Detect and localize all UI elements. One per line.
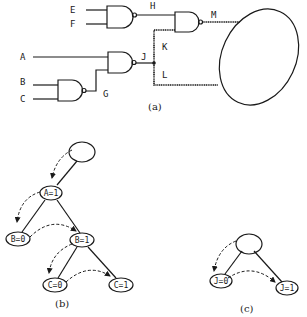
nand-gate-bc xyxy=(58,80,86,101)
label-c: C xyxy=(20,94,25,104)
label-m: M xyxy=(211,10,217,20)
tree-node-j1: J=1 xyxy=(276,281,298,295)
label-f: F xyxy=(70,19,75,29)
label-a: A xyxy=(20,52,26,62)
decision-tree-figure-b: A=1 B=0 B=1 C=0 C=1 (b) xyxy=(6,142,133,309)
edge-root-j0 xyxy=(225,251,242,274)
label-l: L xyxy=(162,70,167,80)
tree-node-root-c xyxy=(236,234,262,254)
edge-a1-b0 xyxy=(22,200,45,232)
tree-node-b0: B=0 xyxy=(6,232,30,246)
nand-gate-hk xyxy=(175,12,203,32)
svg-text:J=0: J=0 xyxy=(214,277,229,286)
nand-gate-ag xyxy=(108,52,136,73)
traversal-arrow xyxy=(49,244,72,273)
label-k: K xyxy=(162,42,168,52)
tree-node-root xyxy=(69,142,95,162)
label-g: G xyxy=(103,89,108,99)
tree-node-c1: C=1 xyxy=(109,278,133,292)
traversal-arrow xyxy=(66,270,110,282)
caption-a: (a) xyxy=(148,101,162,112)
traversal-arrow xyxy=(17,192,40,222)
tree-node-b1: B=1 xyxy=(70,233,94,247)
label-h: H xyxy=(150,1,155,11)
tree-node-j0: J=0 xyxy=(210,274,232,288)
wire-g xyxy=(86,70,108,91)
decision-tree-figure-c: J=0 J=1 (c) xyxy=(210,234,298,314)
edge-a1-b1 xyxy=(57,200,80,233)
svg-text:J=1: J=1 xyxy=(280,284,295,293)
label-e: E xyxy=(70,5,75,15)
edge-root-a1 xyxy=(57,161,77,185)
circuit-figure-a: E F H M K L A J B C xyxy=(20,0,307,118)
label-b: B xyxy=(20,77,25,87)
circuit-block-ellipse xyxy=(204,0,307,118)
tree-node-a1: A=1 xyxy=(40,186,62,200)
tree-node-c0: C=0 xyxy=(43,278,67,292)
edge-b1-c1 xyxy=(88,247,116,278)
diagram-canvas: E F H M K L A J B C xyxy=(0,0,307,317)
traversal-arrow xyxy=(228,271,275,282)
traversal-arrow xyxy=(214,241,236,271)
label-j: J xyxy=(141,52,146,62)
traversal-arrow xyxy=(30,224,76,237)
svg-text:B=0: B=0 xyxy=(11,235,26,244)
edge-b1-c0 xyxy=(58,247,77,278)
svg-text:B=1: B=1 xyxy=(75,236,90,245)
caption-c: (c) xyxy=(240,303,254,314)
svg-text:C=0: C=0 xyxy=(48,281,63,290)
nand-gate-ef xyxy=(86,6,137,28)
svg-text:C=1: C=1 xyxy=(114,281,129,290)
caption-b: (b) xyxy=(55,298,69,309)
svg-text:A=1: A=1 xyxy=(44,189,59,198)
